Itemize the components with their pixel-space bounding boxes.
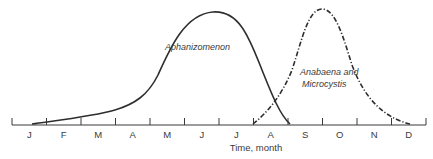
month-label: J	[234, 129, 239, 140]
month-label: F	[61, 129, 67, 140]
month-label: A	[130, 129, 137, 140]
month-label: J	[27, 129, 32, 140]
anabaena-label-line1: Anabaena and	[299, 67, 360, 77]
phytoplankton-seasonal-chart: JFMAMJJASOND Aphanizomenon Anabaena and …	[0, 0, 433, 159]
month-label: S	[302, 129, 308, 140]
month-label: D	[405, 129, 412, 140]
month-label: M	[94, 129, 102, 140]
month-label: A	[268, 129, 275, 140]
x-axis-ticks	[12, 118, 426, 125]
x-axis-month-labels: JFMAMJJASOND	[27, 129, 412, 140]
x-axis-title: Time, month	[230, 142, 282, 153]
aphanizomenon-label: Aphanizomenon	[164, 42, 230, 52]
chart-canvas: JFMAMJJASOND Aphanizomenon Anabaena and …	[0, 0, 433, 159]
month-label: M	[163, 129, 171, 140]
month-label: O	[336, 129, 343, 140]
aphanizomenon-curve	[32, 12, 290, 124]
month-label: J	[199, 129, 204, 140]
month-label: N	[371, 129, 378, 140]
anabaena-label-line2: Microcystis	[302, 79, 347, 89]
